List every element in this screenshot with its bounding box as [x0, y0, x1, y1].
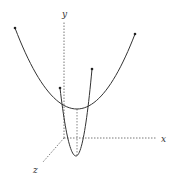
wide-parabola [15, 28, 135, 109]
narrow-parabola-start-point [59, 87, 62, 90]
narrow-parabola [60, 69, 92, 156]
z-axis-label: z [32, 165, 38, 175]
narrow-parabola-end-point [91, 68, 94, 71]
z-axis [43, 138, 64, 162]
parabola-diagram: x y z [0, 0, 176, 180]
wide-parabola-end-point [134, 33, 137, 36]
x-axis-label: x [161, 134, 166, 144]
y-axis-label: y [61, 9, 68, 19]
wide-parabola-start-point [14, 27, 17, 30]
